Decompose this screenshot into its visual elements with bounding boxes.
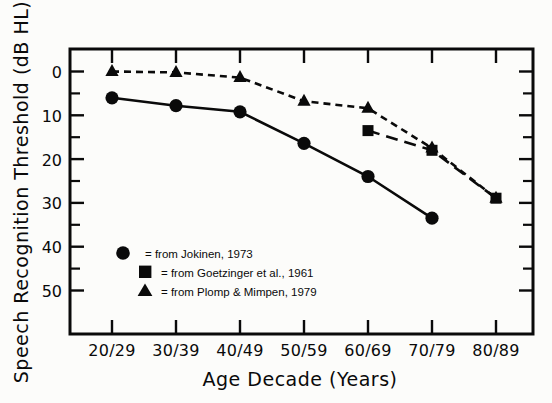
right-axis-ticks bbox=[519, 72, 533, 291]
x-tick-label: 60/69 bbox=[344, 341, 392, 360]
y-tick-label: 50 bbox=[42, 282, 62, 301]
x-tick-label: 40/49 bbox=[216, 341, 264, 360]
circle-marker bbox=[169, 99, 182, 112]
legend-label-jokinen: = from Jokinen, 1973 bbox=[145, 248, 253, 260]
x-tick-label: 30/39 bbox=[152, 341, 200, 360]
circle-marker bbox=[361, 170, 374, 183]
x-tick-label: 20/29 bbox=[88, 341, 136, 360]
x-tick-label: 70/79 bbox=[408, 341, 456, 360]
x-axis-ticks-bottom bbox=[112, 320, 496, 334]
x-axis-title: Age Decade (Years) bbox=[203, 368, 398, 390]
triangle-marker bbox=[105, 64, 118, 76]
y-tick-label: 30 bbox=[42, 194, 62, 213]
legend-circle-icon bbox=[116, 246, 130, 260]
square-marker bbox=[491, 193, 502, 204]
y-tick-labels: 0 10 20 30 40 50 bbox=[42, 63, 62, 301]
chart-legend: = from Jokinen, 1973 = from Goetzinger e… bbox=[116, 246, 316, 297]
circle-marker bbox=[233, 105, 246, 118]
circle-marker bbox=[105, 91, 118, 104]
markers-goetzinger bbox=[363, 125, 502, 204]
y-tick-label: 0 bbox=[52, 63, 62, 82]
x-tick-label: 50/59 bbox=[280, 341, 328, 360]
triangle-marker bbox=[169, 65, 182, 77]
y-tick-label: 20 bbox=[42, 151, 62, 170]
speech-recognition-threshold-chart: 0 10 20 30 40 50 20/29 30/39 40/49 50/59… bbox=[0, 0, 552, 403]
square-marker bbox=[363, 125, 374, 136]
series-line-plomp-mimpen bbox=[112, 72, 496, 199]
legend-label-goetzinger: = from Goetzinger et al., 1961 bbox=[161, 267, 313, 279]
y-tick-label: 10 bbox=[42, 107, 62, 126]
circle-marker bbox=[425, 212, 438, 225]
x-tick-labels: 20/29 30/39 40/49 50/59 60/69 70/79 80/8… bbox=[88, 341, 520, 360]
markers-jokinen bbox=[105, 91, 438, 225]
square-marker bbox=[427, 145, 438, 156]
series-line-jokinen bbox=[112, 98, 432, 218]
circle-marker bbox=[297, 137, 310, 150]
triangle-marker bbox=[297, 94, 310, 106]
x-axis-ticks-top bbox=[112, 49, 496, 63]
y-axis-title: Speech Recognition Threshold (dB HL) bbox=[10, 1, 32, 383]
figure-container: 0 10 20 30 40 50 20/29 30/39 40/49 50/59… bbox=[0, 0, 552, 403]
markers-plomp-mimpen bbox=[105, 64, 502, 203]
legend-square-icon bbox=[139, 266, 151, 278]
y-tick-label: 40 bbox=[42, 238, 62, 257]
legend-triangle-icon bbox=[138, 284, 153, 297]
legend-label-plomp-mimpen: = from Plomp & Mimpen, 1979 bbox=[161, 286, 317, 298]
x-tick-label: 80/89 bbox=[472, 341, 520, 360]
